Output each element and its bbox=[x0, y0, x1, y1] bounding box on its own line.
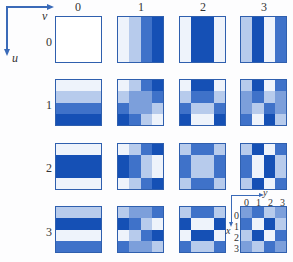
tile-cell bbox=[275, 218, 286, 229]
tile-cell bbox=[129, 144, 140, 155]
tile-cell bbox=[118, 40, 129, 51]
tile-cell bbox=[264, 155, 275, 166]
tile-cell bbox=[56, 28, 67, 39]
tile-cell bbox=[79, 218, 90, 229]
tile-cell bbox=[152, 28, 163, 39]
tile-cell bbox=[129, 51, 140, 62]
tile-cell bbox=[152, 167, 163, 178]
tile-cell bbox=[252, 28, 263, 39]
tile-cell bbox=[191, 241, 202, 252]
tile-cell bbox=[264, 40, 275, 51]
tile-cell bbox=[79, 241, 90, 252]
tile-cell bbox=[264, 28, 275, 39]
tile-cell bbox=[275, 91, 286, 102]
tile-cell bbox=[191, 144, 202, 155]
tile-cell bbox=[275, 114, 286, 125]
tile-cell bbox=[152, 91, 163, 102]
tile-cell bbox=[252, 17, 263, 28]
tile-cell bbox=[264, 144, 275, 155]
tile-cell bbox=[264, 17, 275, 28]
u-axis-arrow-icon bbox=[4, 49, 10, 56]
tile-cell bbox=[275, 28, 286, 39]
inset-col-tick-3: 3 bbox=[280, 198, 285, 208]
u-axis-label: u bbox=[12, 52, 18, 64]
tile-cell bbox=[191, 17, 202, 28]
basis-tile-u0-v2 bbox=[179, 16, 226, 63]
tile-cell bbox=[129, 28, 140, 39]
tile-cell bbox=[141, 207, 152, 218]
tile-cell bbox=[67, 144, 78, 155]
tile-cell bbox=[141, 178, 152, 189]
tile-cell bbox=[141, 218, 152, 229]
tile-cell bbox=[191, 40, 202, 51]
tile-cell bbox=[152, 103, 163, 114]
inset-y-axis-line bbox=[231, 195, 261, 196]
tile-cell bbox=[90, 40, 101, 51]
inset-row-tick-3: 3 bbox=[234, 244, 239, 254]
tile-cell bbox=[79, 40, 90, 51]
tile-cell bbox=[241, 178, 252, 189]
tile-cell bbox=[191, 218, 202, 229]
tile-cell bbox=[241, 114, 252, 125]
tile-cell bbox=[252, 114, 263, 125]
tile-cell bbox=[152, 218, 163, 229]
tile-cell bbox=[141, 241, 152, 252]
tile-cell bbox=[129, 167, 140, 178]
tile-cell bbox=[214, 144, 225, 155]
tile-cell bbox=[129, 155, 140, 166]
basis-tile-u0-v1 bbox=[117, 16, 164, 63]
tile-cell bbox=[214, 114, 225, 125]
tile-cell bbox=[56, 144, 67, 155]
tile-cell bbox=[252, 91, 263, 102]
tile-cell bbox=[275, 103, 286, 114]
inset-col-tick-2: 2 bbox=[268, 198, 273, 208]
tile-cell bbox=[241, 230, 252, 241]
tile-cell bbox=[203, 80, 214, 91]
tile-cell bbox=[214, 51, 225, 62]
tile-cell bbox=[90, 103, 101, 114]
tile-cell bbox=[152, 114, 163, 125]
tile-cell bbox=[129, 103, 140, 114]
tile-cell bbox=[79, 103, 90, 114]
tile-cell bbox=[252, 144, 263, 155]
tile-cell bbox=[90, 218, 101, 229]
tile-cell bbox=[252, 207, 263, 218]
tile-cell bbox=[241, 241, 252, 252]
tile-cell bbox=[203, 103, 214, 114]
tile-cell bbox=[180, 178, 191, 189]
tile-cell bbox=[203, 230, 214, 241]
tile-cell bbox=[203, 51, 214, 62]
tile-cell bbox=[275, 207, 286, 218]
v-axis-line bbox=[6, 6, 48, 8]
tile-cell bbox=[152, 178, 163, 189]
column-label-0: 0 bbox=[75, 1, 81, 13]
tile-cell bbox=[79, 51, 90, 62]
tile-cell bbox=[56, 80, 67, 91]
tile-cell bbox=[129, 218, 140, 229]
tile-cell bbox=[203, 91, 214, 102]
tile-cell bbox=[79, 155, 90, 166]
tile-cell bbox=[191, 155, 202, 166]
tile-cell bbox=[252, 51, 263, 62]
tile-cell bbox=[191, 178, 202, 189]
tile-cell bbox=[203, 144, 214, 155]
row-label-0: 0 bbox=[46, 36, 52, 48]
tile-cell bbox=[180, 218, 191, 229]
tile-cell bbox=[141, 167, 152, 178]
tile-cell bbox=[203, 241, 214, 252]
tile-cell bbox=[275, 17, 286, 28]
tile-cell bbox=[79, 144, 90, 155]
tile-cell bbox=[180, 144, 191, 155]
tile-cell bbox=[67, 114, 78, 125]
basis-tile-u2-v2 bbox=[179, 143, 226, 190]
tile-cell bbox=[203, 178, 214, 189]
tile-cell bbox=[90, 241, 101, 252]
tile-cell bbox=[90, 91, 101, 102]
tile-cell bbox=[141, 103, 152, 114]
tile-cell bbox=[118, 144, 129, 155]
tile-cell bbox=[56, 241, 67, 252]
tile-cell bbox=[152, 241, 163, 252]
tile-cell bbox=[90, 207, 101, 218]
tile-cell bbox=[252, 241, 263, 252]
tile-cell bbox=[203, 28, 214, 39]
